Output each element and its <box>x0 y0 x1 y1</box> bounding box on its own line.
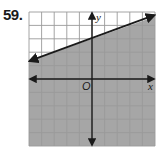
y-axis-label: y <box>95 11 101 23</box>
origin-label: O <box>82 80 91 92</box>
x-axis-label: x <box>147 80 153 92</box>
coordinate-graph: x y O <box>0 0 166 160</box>
